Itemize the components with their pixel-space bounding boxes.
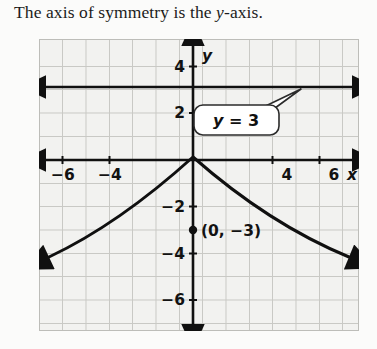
caption-suffix: -axis. [224,2,263,22]
x-tick-label-6: 6 [329,166,340,184]
point-label: (0, −3) [201,222,261,240]
y-tick-label-4: 4 [174,58,185,76]
caption-prefix: The axis of symmetry is the [14,2,216,22]
callout-label-variable: y [213,111,224,130]
plot-background [39,39,359,331]
x-axis-label: x [346,166,358,184]
y-tick-label-2: 2 [174,104,185,122]
page-caption: The axis of symmetry is the y-axis. [14,2,263,23]
x-tick-label-4: 4 [282,166,293,184]
point-marker [189,226,197,234]
y-axis-label: y [202,47,213,65]
y-tick-label-neg6: −6 [161,291,185,309]
x-tick-label-neg6: −6 [51,166,75,184]
x-tick-label-neg4: −4 [98,166,122,184]
caption-italic-y: y [216,2,224,22]
callout-label: y = 3 [213,111,259,130]
y-tick-label-neg2: −2 [161,198,185,216]
callout-label-rest: = 3 [223,111,259,130]
y-tick-label-neg4: −4 [161,245,185,263]
coordinate-graph: 4 2 −2 −4 −6 −6 −4 4 6 y x (0, −3) y = 3 [39,39,359,331]
